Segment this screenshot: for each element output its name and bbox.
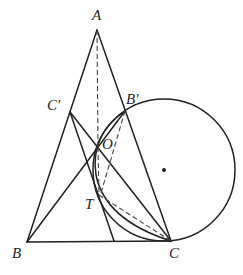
geometry-diagram: A B C C′ B′ O T [0,0,243,275]
label-A: A [92,8,101,23]
label-O: O [102,137,113,152]
label-C: C [169,246,179,261]
label-B-prime: B′ [126,92,138,107]
label-C-prime: C′ [47,98,60,113]
label-B: B [12,246,21,261]
dashed-OT [98,147,99,195]
label-T: T [85,197,93,212]
circle-center-point [162,168,166,172]
dashed-AO [97,30,98,147]
diagram-figure [0,0,243,275]
dashed-B-prime-T [101,111,125,193]
segment-BC [27,241,171,242]
segment-CC-prime [70,112,171,241]
